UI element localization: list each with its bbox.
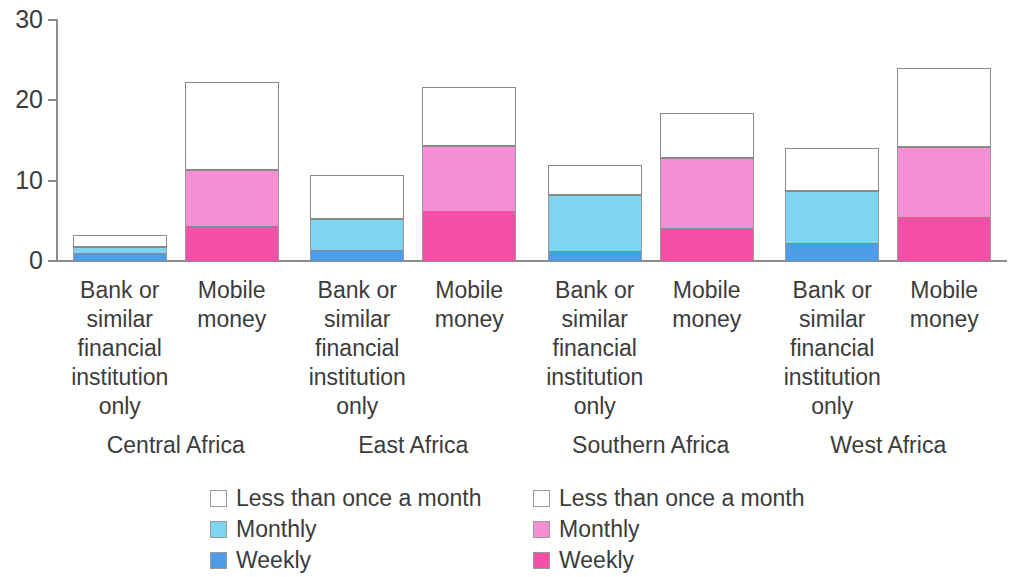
- group-label-east-africa: East Africa: [295, 430, 533, 460]
- bar-segment-less-than-once-a-month: [897, 68, 991, 147]
- bar-segment-less-than-once-a-month: [185, 82, 279, 170]
- bar-segment-less-than-once-a-month: [310, 175, 404, 219]
- bar-segment-monthly: [897, 147, 991, 217]
- legend-swatch-icon: [210, 552, 227, 569]
- bar-central-africa-bank: [73, 235, 167, 261]
- legend-label: Monthly: [559, 518, 640, 541]
- bar-segment-weekly: [785, 243, 879, 261]
- bar-segment-weekly: [422, 211, 516, 261]
- x-label-bank-only: Bank or similar financial institution on…: [60, 276, 180, 421]
- legend-column-blue: Less than once a monthMonthlyWeekly: [210, 483, 482, 576]
- plot-area: [57, 20, 1007, 261]
- bar-southern-africa-mobile: [660, 113, 754, 261]
- legend-swatch-icon: [533, 521, 550, 538]
- legend-column-pink: Less than once a monthMonthlyWeekly: [533, 483, 805, 576]
- bar-east-africa-mobile: [422, 87, 516, 261]
- legend-item-monthly[interactable]: Monthly: [210, 514, 482, 545]
- bar-segment-monthly: [548, 195, 642, 251]
- legend-label: Weekly: [236, 549, 311, 572]
- bar-west-africa-mobile: [897, 68, 991, 261]
- legend-item-less-than-once-a-month[interactable]: Less than once a month: [533, 483, 805, 514]
- bar-segment-less-than-once-a-month: [660, 113, 754, 158]
- group-label-central-africa: Central Africa: [57, 430, 295, 460]
- y-tick-30: [48, 19, 57, 21]
- bar-segment-less-than-once-a-month: [422, 87, 516, 146]
- chart-legend: Less than once a monthMonthlyWeeklyLess …: [0, 483, 1015, 577]
- legend-item-monthly[interactable]: Monthly: [533, 514, 805, 545]
- y-tick-0: [48, 260, 57, 262]
- bar-segment-less-than-once-a-month: [548, 165, 642, 195]
- group-label-southern-africa: Southern Africa: [532, 430, 770, 460]
- legend-swatch-icon: [533, 490, 550, 507]
- y-tick-10: [48, 180, 57, 182]
- x-label-bank-only: Bank or similar financial institution on…: [772, 276, 892, 421]
- bar-segment-weekly: [548, 251, 642, 261]
- y-axis-ticks: 0102030: [0, 0, 57, 262]
- bar-southern-africa-bank: [548, 165, 642, 261]
- x-label-bank-only: Bank or similar financial institution on…: [297, 276, 417, 421]
- legend-label: Monthly: [236, 518, 317, 541]
- legend-item-weekly[interactable]: Weekly: [533, 545, 805, 576]
- bar-segment-weekly: [310, 250, 404, 261]
- legend-swatch-icon: [210, 490, 227, 507]
- stacked-bar-chart: 0102030 Bank or similar financial instit…: [0, 0, 1015, 577]
- x-label-bank-only: Bank or similar financial institution on…: [535, 276, 655, 421]
- legend-label: Weekly: [559, 549, 634, 572]
- bar-segment-monthly: [422, 146, 516, 211]
- legend-swatch-icon: [533, 552, 550, 569]
- bar-segment-weekly: [185, 226, 279, 261]
- bar-west-africa-bank: [785, 148, 879, 261]
- bar-segment-weekly: [897, 217, 991, 261]
- bar-east-africa-bank: [310, 175, 404, 261]
- bar-segment-monthly: [660, 158, 754, 228]
- legend-item-less-than-once-a-month[interactable]: Less than once a month: [210, 483, 482, 514]
- bar-segment-weekly: [660, 228, 754, 261]
- bar-segment-monthly: [73, 247, 167, 253]
- x-label-mobile-money: Mobile money: [172, 276, 292, 334]
- y-tick-label-30: 30: [15, 7, 43, 32]
- legend-item-weekly[interactable]: Weekly: [210, 545, 482, 576]
- x-axis-group-labels: Central AfricaEast AfricaSouthern Africa…: [0, 430, 1015, 470]
- y-tick-label-10: 10: [15, 168, 43, 193]
- bar-segment-monthly: [185, 170, 279, 225]
- group-label-west-africa: West Africa: [770, 430, 1008, 460]
- bar-segment-monthly: [310, 219, 404, 250]
- bar-segment-less-than-once-a-month: [73, 235, 167, 246]
- legend-swatch-icon: [210, 521, 227, 538]
- x-axis-category-labels: Bank or similar financial institution on…: [0, 264, 1015, 424]
- bar-segment-monthly: [785, 191, 879, 243]
- y-tick-label-20: 20: [15, 87, 43, 112]
- x-label-mobile-money: Mobile money: [409, 276, 529, 334]
- x-label-mobile-money: Mobile money: [884, 276, 1004, 334]
- bar-segment-weekly: [73, 253, 167, 261]
- legend-label: Less than once a month: [559, 487, 805, 510]
- bar-segment-less-than-once-a-month: [785, 148, 879, 191]
- bar-central-africa-mobile: [185, 82, 279, 261]
- x-label-mobile-money: Mobile money: [647, 276, 767, 334]
- legend-label: Less than once a month: [236, 487, 482, 510]
- y-tick-20: [48, 99, 57, 101]
